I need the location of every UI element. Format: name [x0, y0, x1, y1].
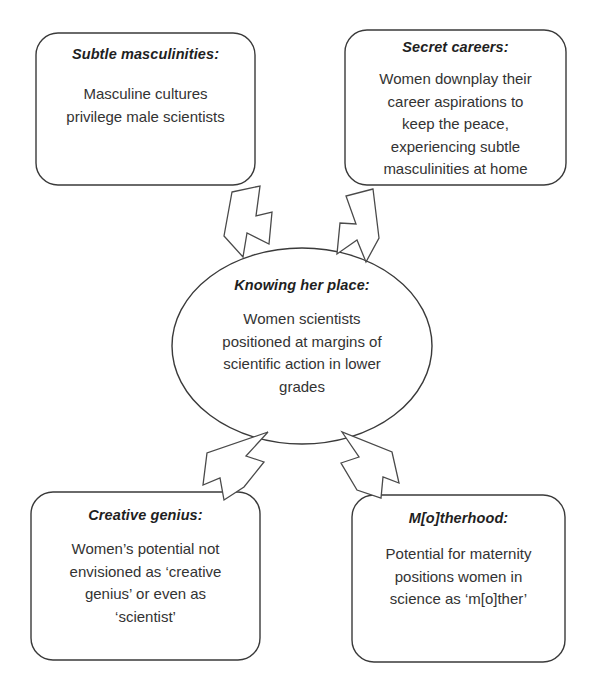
node-title-motherhood: M[o]therhood: — [409, 509, 509, 527]
node-body-motherhood: Potential for maternity positions women … — [386, 543, 532, 611]
node-title-knowing-her-place: Knowing her place: — [234, 276, 370, 294]
node-body-creative-genius: Women’s potential not envisioned as ‘cre… — [70, 538, 222, 628]
node-body-line: career aspirations to — [379, 91, 531, 114]
node-body-line: Potential for maternity — [386, 543, 532, 566]
node-title-subtle-masculinities: Subtle masculinities: — [72, 45, 219, 63]
node-body-line: science as ‘m[o]ther’ — [386, 588, 532, 611]
node-secret-careers[interactable]: Secret careers: Women downplay their car… — [345, 30, 566, 185]
node-title-secret-careers: Secret careers: — [402, 38, 508, 56]
arrow-subtle-masculinities-to-center — [224, 186, 272, 257]
node-body-line: positions women in — [386, 566, 532, 589]
node-body-subtle-masculinities: Masculine cultures privilege male scient… — [66, 83, 224, 128]
node-body-line: masculinities at home — [379, 158, 531, 181]
node-body-line: grades — [222, 376, 381, 399]
node-body-line: Women downplay their — [379, 68, 531, 91]
node-body-line: genius’ or even as — [70, 583, 222, 606]
node-body-line: Women scientists — [222, 308, 381, 331]
node-body-line: privilege male scientists — [66, 106, 224, 129]
node-creative-genius[interactable]: Creative genius: Women’s potential not e… — [31, 492, 260, 660]
node-body-line: Women’s potential not — [70, 538, 222, 561]
node-knowing-her-place[interactable]: Knowing her place: Women scientists posi… — [172, 248, 432, 444]
node-body-line: keep the peace, — [379, 113, 531, 136]
node-body-line: envisioned as ‘creative — [70, 561, 222, 584]
node-body-line: Masculine cultures — [66, 83, 224, 106]
node-subtle-masculinities[interactable]: Subtle masculinities: Masculine cultures… — [36, 33, 255, 185]
node-body-secret-careers: Women downplay their career aspirations … — [379, 68, 531, 181]
node-body-line: scientific action in lower — [222, 353, 381, 376]
diagram-canvas: Subtle masculinities: Masculine cultures… — [0, 0, 590, 693]
node-title-creative-genius: Creative genius: — [88, 506, 202, 524]
node-body-line: ‘scientist’ — [70, 606, 222, 629]
node-motherhood[interactable]: M[o]therhood: Potential for maternity po… — [352, 495, 565, 662]
node-body-line: experiencing subtle — [379, 136, 531, 159]
node-body-line: positioned at margins of — [222, 331, 381, 354]
node-body-knowing-her-place: Women scientists positioned at margins o… — [222, 308, 381, 398]
